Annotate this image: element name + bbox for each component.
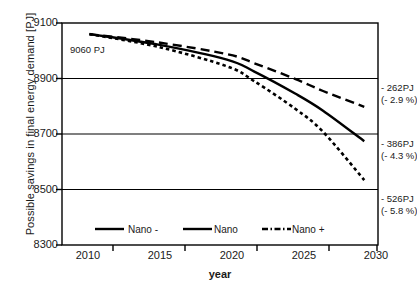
annotation-nano-pj: - 386PJ — [381, 138, 417, 150]
annotation-nano-minus-pct: (- 2.9 %) — [381, 94, 417, 106]
annotation-nano-minus: - 262PJ (- 2.9 %) — [381, 82, 417, 105]
annotation-nano-plus-pct: (- 5.8 %) — [381, 205, 417, 217]
start-value-annotation: 9060 PJ — [70, 44, 105, 55]
annotation-nano: - 386PJ (- 4.3 %) — [381, 138, 417, 161]
legend-label-nano: Nano — [214, 224, 238, 235]
annotation-nano-pct: (- 4.3 %) — [381, 150, 417, 162]
annotation-nano-plus-pj: - 526PJ — [381, 193, 417, 205]
annotation-nano-plus: - 526PJ (- 5.8 %) — [381, 193, 417, 216]
legend-label-nano-plus: Nano + — [292, 224, 325, 235]
annotation-nano-minus-pj: - 262PJ — [381, 82, 417, 94]
legend-label-nano-minus: Nano - — [128, 224, 158, 235]
